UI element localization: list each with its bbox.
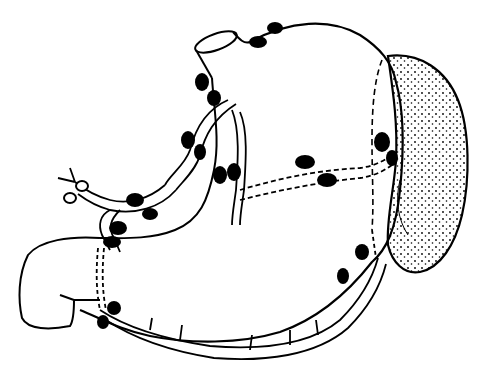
spleen bbox=[388, 55, 468, 272]
hollow-lymph-nodes bbox=[64, 181, 88, 203]
stomach-lymph-node-diagram bbox=[0, 0, 482, 377]
